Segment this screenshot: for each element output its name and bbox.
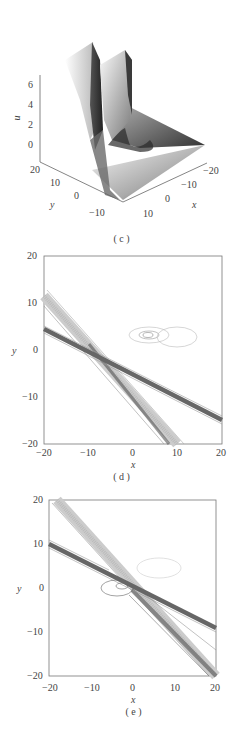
y-tick: 0 bbox=[33, 345, 38, 355]
y-axis-label: y bbox=[50, 200, 54, 210]
x-axis-label: x bbox=[192, 200, 196, 210]
surface-3d bbox=[0, 0, 243, 230]
y-tick: 20 bbox=[33, 495, 43, 505]
z-tick: 0 bbox=[28, 140, 33, 150]
y-tick: 0 bbox=[39, 583, 44, 593]
x-tick: 10 bbox=[170, 683, 180, 693]
x-tick: −20 bbox=[36, 448, 52, 458]
y-tick: −10 bbox=[27, 627, 43, 637]
x-tick: −20 bbox=[203, 166, 219, 176]
y-tick: 10 bbox=[27, 298, 37, 308]
x-tick: 20 bbox=[216, 448, 226, 458]
y-tick: 10 bbox=[50, 178, 60, 188]
x-tick: 10 bbox=[172, 448, 182, 458]
x-tick: 20 bbox=[210, 683, 220, 693]
y-tick: −10 bbox=[22, 392, 38, 402]
x-tick: 0 bbox=[130, 683, 135, 693]
x-tick: −10 bbox=[84, 683, 100, 693]
y-tick: −20 bbox=[27, 671, 43, 681]
contour-plot-e bbox=[49, 500, 216, 676]
x-tick: 0 bbox=[165, 194, 170, 204]
x-axis-label: x bbox=[131, 460, 135, 470]
x-tick: −10 bbox=[181, 180, 197, 190]
z-axis-label: u bbox=[12, 116, 22, 121]
y-tick: 0 bbox=[74, 191, 79, 201]
z-tick: 6 bbox=[28, 80, 33, 90]
y-tick: −10 bbox=[89, 208, 105, 218]
caption-d: ( d ) bbox=[0, 472, 243, 482]
caption-c: ( c ) bbox=[0, 234, 243, 244]
x-axis-label: x bbox=[131, 695, 135, 705]
x-tick: −20 bbox=[42, 683, 58, 693]
x-tick: −10 bbox=[80, 448, 96, 458]
x-tick: 10 bbox=[143, 209, 153, 219]
y-axis-label: y bbox=[17, 584, 21, 594]
z-tick: 2 bbox=[28, 120, 33, 130]
y-tick: 20 bbox=[30, 165, 40, 175]
caption-e: ( e ) bbox=[12, 707, 243, 717]
y-axis-label: y bbox=[12, 346, 16, 356]
contour-plot-d bbox=[44, 256, 222, 444]
y-tick: 20 bbox=[27, 251, 37, 261]
z-tick: 4 bbox=[28, 100, 33, 110]
x-tick: 0 bbox=[130, 448, 135, 458]
y-tick: 10 bbox=[33, 539, 43, 549]
